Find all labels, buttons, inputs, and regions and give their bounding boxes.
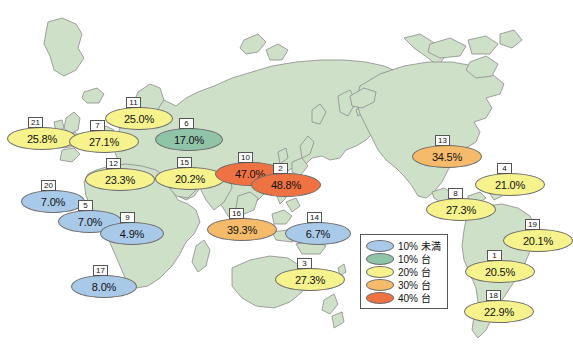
marker-id-8: 8 (448, 188, 463, 199)
marker-id-20: 20 (41, 180, 56, 191)
marker-id-11: 11 (126, 97, 141, 108)
marker-value-18: 22.9% (464, 300, 534, 323)
marker-value-13: 34.5% (412, 145, 482, 168)
marker-id-2: 2 (273, 163, 288, 174)
marker-id-5: 5 (78, 200, 93, 211)
marker-id-13: 13 (435, 135, 450, 146)
marker-value-2: 48.8% (251, 173, 321, 197)
marker-value-6: 17.0% (155, 128, 223, 151)
marker-id-10: 10 (238, 152, 253, 163)
marker-value-20: 7.0% (21, 190, 85, 213)
marker-id-18: 18 (486, 290, 501, 301)
marker-value-8: 27.3% (426, 198, 496, 221)
marker-id-9: 9 (120, 212, 135, 223)
marker-id-15: 15 (177, 157, 192, 168)
marker-id-14: 14 (307, 212, 322, 223)
marker-id-3: 3 (297, 258, 312, 269)
marker-value-7: 27.1% (69, 130, 139, 153)
marker-id-4: 4 (497, 163, 512, 174)
legend-swatch-40s (366, 292, 394, 304)
marker-id-17: 17 (93, 265, 108, 276)
marker-id-16: 16 (229, 208, 244, 219)
legend-swatch-30s (366, 279, 394, 291)
legend-box: 10% 未満 10% 台 20% 台 30% 台 40% 台 (360, 234, 448, 309)
legend-row-40s: 40% 台 (366, 291, 441, 304)
marker-value-4: 21.0% (475, 173, 545, 196)
marker-value-19: 20.1% (503, 229, 573, 252)
marker-value-1: 20.5% (465, 260, 535, 283)
legend-label-40s: 40% 台 (398, 290, 431, 305)
marker-id-21: 21 (28, 117, 43, 128)
legend-swatch-10s (366, 253, 394, 265)
legend-swatch-under-10 (366, 240, 394, 252)
marker-value-16: 39.3% (207, 218, 277, 241)
marker-value-14: 6.7% (285, 222, 351, 245)
marker-value-15: 20.2% (155, 167, 225, 190)
legend-swatch-20s (366, 266, 394, 278)
marker-id-6: 6 (179, 118, 194, 129)
marker-value-21: 25.8% (7, 127, 77, 150)
marker-value-3: 27.3% (275, 268, 345, 291)
marker-id-19: 19 (525, 219, 540, 230)
marker-value-17: 8.0% (71, 275, 137, 298)
marker-id-7: 7 (90, 120, 105, 131)
marker-id-12: 12 (106, 158, 121, 169)
marker-id-1: 1 (487, 250, 502, 261)
marker-value-9: 4.9% (100, 222, 164, 245)
marker-value-12: 23.3% (85, 168, 155, 191)
marker-value-11: 25.0% (105, 107, 173, 130)
